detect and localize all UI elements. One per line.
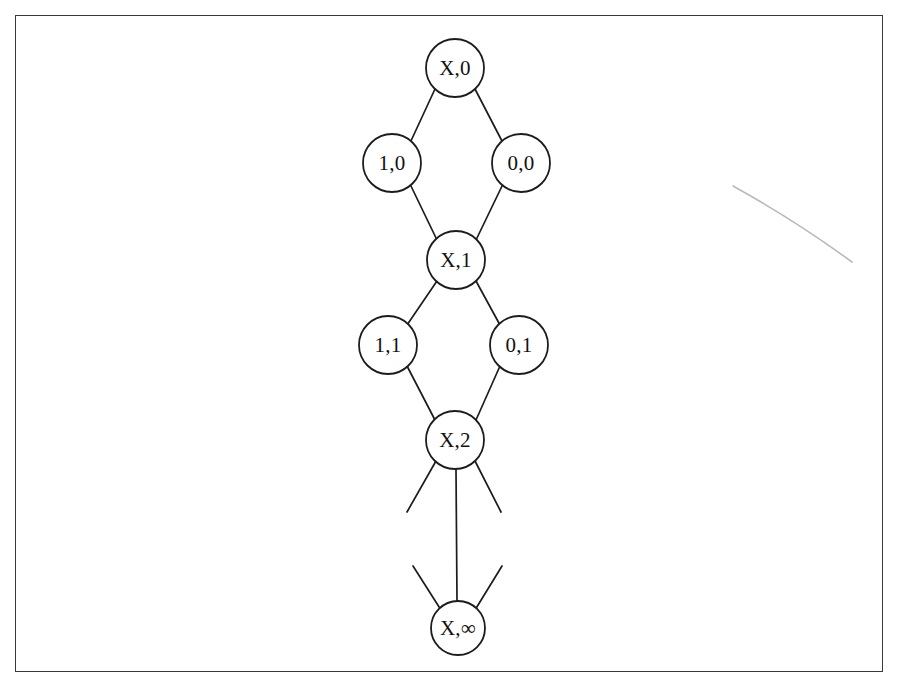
edge-n00-to-x1 (476, 184, 503, 240)
dangling-edge-x2-down-left (407, 461, 436, 512)
figure-page: X,01,00,0X,11,10,1X,2X,∞ (0, 0, 898, 685)
artifacts-layer (733, 186, 852, 262)
dangling-edge-x2-down-right (475, 461, 501, 512)
node-circle-x2 (426, 411, 484, 469)
node-circle-xinf (431, 601, 485, 655)
dangling-edge-xinf-up-left (413, 566, 441, 610)
edge-n11-to-x2 (407, 366, 435, 420)
dangling-edge-xinf-up-right (475, 566, 502, 610)
node-circle-n11 (359, 316, 417, 374)
node-circle-n10 (363, 134, 421, 192)
edge-x1-to-n11 (407, 281, 437, 325)
dangling-edges-layer (407, 461, 502, 610)
edge-x0-to-n10 (410, 89, 435, 143)
node-circle-n01 (490, 316, 548, 374)
edge-x1-to-n01 (476, 281, 500, 325)
node-circle-x1 (427, 231, 485, 289)
node-circle-x0 (426, 39, 484, 97)
edge-n10-to-x1 (410, 184, 437, 240)
edge-x0-to-n00 (475, 89, 503, 143)
nodes-layer (359, 39, 550, 655)
scan-smudge (733, 186, 852, 262)
edge-x2-to-xinf (456, 469, 457, 601)
node-circle-n00 (492, 134, 550, 192)
diagram-canvas (0, 0, 898, 685)
edge-n01-to-x2 (476, 366, 500, 420)
